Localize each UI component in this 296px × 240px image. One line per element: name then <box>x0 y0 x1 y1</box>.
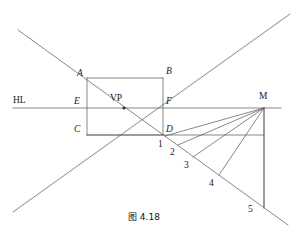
label-point-5: 5 <box>248 205 253 215</box>
label-hl: HL <box>13 96 26 106</box>
label-point-3: 3 <box>184 161 189 171</box>
measure-ray-m-1 <box>165 108 264 136</box>
figure-canvas: HL VP M A B E F C D 1 2 3 4 5 图 4.18 <box>0 0 296 240</box>
diagonal-ascending <box>13 14 290 212</box>
label-m: M <box>259 92 267 102</box>
figure-caption: 图 4.18 <box>128 210 160 223</box>
measure-ray-m-3 <box>193 108 264 157</box>
point-group <box>122 106 125 109</box>
label-point-f: F <box>166 97 172 107</box>
label-point-1: 1 <box>158 140 163 150</box>
label-point-c: C <box>74 125 80 135</box>
diagonal-descending <box>18 30 288 225</box>
label-point-e: E <box>74 97 80 107</box>
label-point-a: A <box>77 69 83 79</box>
label-point-d: D <box>166 125 173 135</box>
label-point-4: 4 <box>209 179 214 189</box>
label-point-2: 2 <box>170 148 175 158</box>
label-vp: VP <box>110 94 122 104</box>
label-point-b: B <box>166 67 172 77</box>
vanishing-point-dot <box>122 106 125 109</box>
line-group <box>13 14 290 225</box>
measure-ray-m-2 <box>178 108 264 145</box>
